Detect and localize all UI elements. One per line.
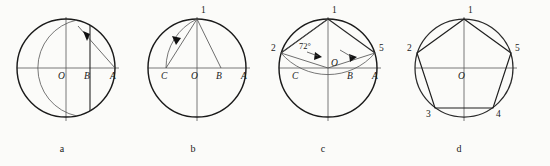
panel-b-label-O: O [191,71,198,81]
panel-a-label-B: B [84,71,90,81]
panel-a-direction-arrow [83,31,90,41]
panel-c: 72° 1 2 5 C B A O c [271,5,384,154]
panel-b-caption: b [191,143,196,154]
panel-a-label-O: O [58,71,65,81]
panel-d-label-O: O [458,71,465,81]
panel-a: O B A a [17,17,119,154]
panel-d-label-2: 2 [407,43,412,53]
panel-c-label-5: 5 [379,43,384,53]
panel-d-label-5: 5 [515,43,520,53]
panel-b-label-B: B [216,71,222,81]
panel-c-label-A: A [371,71,378,81]
panel-c-label-C: C [292,71,299,81]
panel-a-label-A: A [109,71,116,81]
panel-c-angle-label: 72° [299,41,311,51]
panel-c-angle-arrow-right [349,54,357,62]
panel-a-caption: a [60,143,65,154]
panel-b-label-C: C [161,71,168,81]
panel-d-label-1: 1 [468,5,473,15]
panel-c-label-2: 2 [271,43,276,53]
panel-d-label-3: 3 [426,109,431,119]
panel-c-label-B: B [347,71,353,81]
panel-b-label-1: 1 [201,5,206,15]
panel-c-chord-1-5 [328,19,375,53]
panel-b-line-1B [197,19,221,68]
panel-d-caption: d [457,143,462,154]
pentagon-construction-figure: O B A a 1 C O B A b [0,0,550,166]
panel-d-label-4: 4 [496,109,501,119]
panel-d: 1 2 3 4 5 O d [407,5,520,154]
panel-b-label-A: A [240,71,247,81]
panel-c-angle-leader-right [340,50,352,57]
panel-c-caption: c [321,143,326,154]
panel-b: 1 C O B A b [148,5,250,154]
figure-container: O B A a 1 C O B A b [0,0,550,166]
panel-c-label-O: O [331,58,338,68]
panel-c-label-1: 1 [332,5,337,15]
